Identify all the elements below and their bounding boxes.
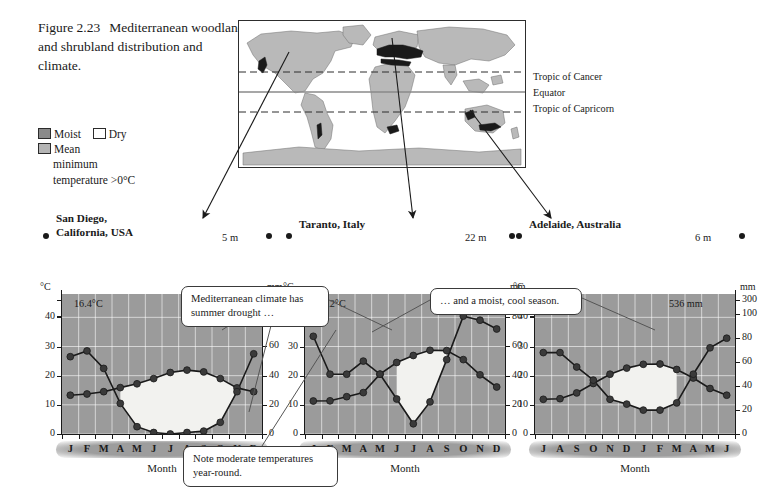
- station-dot-left-icon: [286, 233, 292, 239]
- callout-moderate-temperatures: Note moderate temperatures year-round.: [183, 446, 338, 487]
- legend-label-mean-line2: minimum: [53, 157, 135, 172]
- legend-label-dry: Dry: [109, 128, 127, 140]
- month-label-9: O: [455, 443, 472, 454]
- left-tick-label: 10: [40, 398, 55, 409]
- month-tick: [95, 434, 96, 439]
- month-label-6: J: [405, 443, 422, 454]
- left-tick: [530, 317, 535, 318]
- month-label-0: J: [62, 443, 79, 454]
- right-tick: [735, 314, 740, 315]
- month-tick: [262, 434, 263, 439]
- right-tick-label: 20: [742, 403, 752, 414]
- right-tick-label: 80: [742, 331, 752, 342]
- left-tick-label: 20: [283, 369, 298, 380]
- month-tick: [195, 434, 196, 439]
- legend: Moist Dry Mean minimum temperature >0°C: [38, 127, 238, 188]
- left-tick: [57, 376, 62, 377]
- callout-moist-cool-season: … and a moist, cool season.: [430, 288, 582, 315]
- right-tick: [505, 346, 510, 347]
- month-tick: [355, 434, 356, 439]
- left-tick-label: 0: [283, 427, 298, 438]
- left-tick-label: 20: [40, 369, 55, 380]
- left-tick-minor: [57, 316, 62, 317]
- month-label-4: N: [602, 443, 619, 454]
- right-tick: [505, 317, 510, 318]
- station-title: Taranto, Italy: [299, 218, 365, 232]
- month-tick: [338, 434, 339, 439]
- month-label-5: J: [145, 443, 162, 454]
- left-tick: [57, 405, 62, 406]
- right-tick: [735, 386, 740, 387]
- left-tick-label: 30: [40, 340, 55, 351]
- station-title: Adelaide, Australia: [529, 218, 621, 232]
- left-tick: [300, 405, 305, 406]
- month-label-2: S: [568, 443, 585, 454]
- right-tick: [735, 338, 740, 339]
- month-label-7: F: [652, 443, 669, 454]
- month-tick: [568, 434, 569, 439]
- month-tick: [455, 434, 456, 439]
- left-axis-unit: °C: [40, 281, 51, 292]
- right-tick-label: 20: [269, 398, 279, 409]
- month-label-9: A: [685, 443, 702, 454]
- right-tick-label: 40: [269, 369, 279, 380]
- right-tick: [505, 376, 510, 377]
- tropic-of-capricorn-label-text: Tropic of Capricorn: [533, 103, 614, 114]
- legend-label-mean: Mean: [54, 143, 80, 155]
- right-tick-label: 60: [269, 339, 279, 350]
- month-label-3: A: [112, 443, 129, 454]
- station-dot-right-icon: [509, 233, 515, 239]
- left-tick: [530, 405, 535, 406]
- month-tick: [552, 434, 553, 439]
- legend-item-dry: Dry: [93, 127, 127, 142]
- month-label-2: M: [338, 443, 355, 454]
- month-tick: [472, 434, 473, 439]
- mean-min-temp-swatch-icon: [38, 143, 51, 154]
- month-label-8: S: [438, 443, 455, 454]
- month-tick: [438, 434, 439, 439]
- left-tick-minor: [530, 316, 535, 317]
- x-axis-label: Month: [535, 462, 735, 474]
- station-elevation: 22 m: [465, 232, 486, 243]
- legend-label-moist: Moist: [54, 128, 81, 140]
- month-tick: [505, 434, 506, 439]
- month-label-5: D: [618, 443, 635, 454]
- month-label-10: N: [472, 443, 489, 454]
- legend-item-mean-min-temp: Mean minimum temperature >0°C: [38, 142, 135, 188]
- month-tick: [405, 434, 406, 439]
- left-tick: [57, 347, 62, 348]
- month-tick: [305, 434, 306, 439]
- month-label-11: D: [488, 443, 505, 454]
- month-tick: [535, 434, 536, 439]
- month-tick: [162, 434, 163, 439]
- month-tick: [422, 434, 423, 439]
- map-graphic: [239, 21, 525, 167]
- right-tick: [735, 300, 740, 301]
- month-label-4: M: [372, 443, 389, 454]
- station-elevation: 5 m: [222, 232, 238, 243]
- month-label-1: F: [79, 443, 96, 454]
- left-tick: [530, 376, 535, 377]
- left-tick-label: 20: [513, 369, 528, 380]
- left-tick: [300, 376, 305, 377]
- left-tick-label: 30: [283, 340, 298, 351]
- month-tick: [79, 434, 80, 439]
- right-tick: [735, 362, 740, 363]
- month-tick: [652, 434, 653, 439]
- left-tick-minor: [57, 300, 62, 301]
- month-label-7: A: [422, 443, 439, 454]
- station-dot-right-icon: [266, 233, 272, 239]
- legend-item-moist: Moist: [38, 127, 81, 142]
- month-label-0: J: [535, 443, 552, 454]
- total-precipitation-value: 536 mm: [669, 298, 703, 309]
- month-tick: [735, 434, 736, 439]
- month-tick: [212, 434, 213, 439]
- month-tick: [618, 434, 619, 439]
- month-label-8: M: [668, 443, 685, 454]
- station-elevation: 6 m: [695, 232, 711, 243]
- left-tick: [530, 347, 535, 348]
- right-tick: [505, 405, 510, 406]
- left-tick-label: 10: [513, 398, 528, 409]
- month-label-1: A: [552, 443, 569, 454]
- month-label-3: O: [585, 443, 602, 454]
